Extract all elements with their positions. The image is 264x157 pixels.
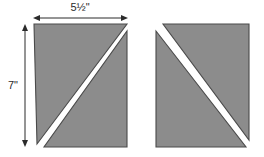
right-rectangle-group xyxy=(156,24,249,147)
height-dimension-label: 7" xyxy=(8,79,18,91)
width-dimension-label: 5½" xyxy=(70,1,89,13)
height-dimension-arrow-bottom xyxy=(22,140,28,147)
width-dimension-arrow-left xyxy=(33,15,40,21)
height-dimension-arrow-top xyxy=(22,24,28,31)
diagram-canvas: 5½" 7" xyxy=(0,0,264,157)
width-dimension: 5½" xyxy=(33,1,128,21)
height-dimension: 7" xyxy=(8,24,28,147)
width-dimension-arrow-right xyxy=(121,15,128,21)
left-rectangle-group xyxy=(34,24,127,147)
cut-rectangles-diagram: 5½" 7" xyxy=(0,0,264,157)
